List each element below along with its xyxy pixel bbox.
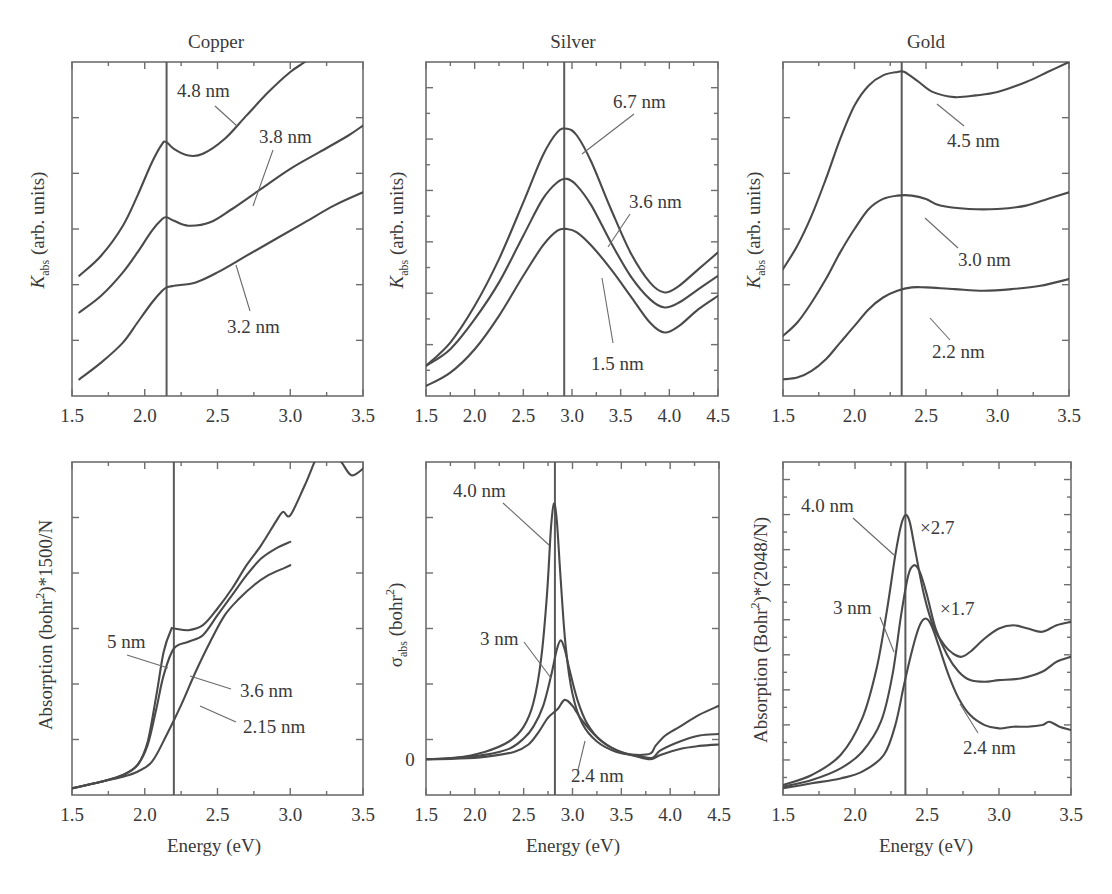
x-tick-label: 2.5 <box>511 405 535 426</box>
x-tick-label: 1.5 <box>60 405 84 426</box>
ylabel-gold-bottom: Absorption (Bohr2)*(2048/N) <box>748 517 772 743</box>
x-tick-label: 1.5 <box>414 405 438 426</box>
x-tick-label: 3.0 <box>278 405 302 426</box>
x-tick-label: 3.5 <box>351 405 375 426</box>
series-label: 4.0 nm <box>801 495 854 516</box>
column-title-copper: Copper <box>188 31 245 52</box>
x-tick-label: 3.0 <box>561 804 585 825</box>
x-tick-label: 3.5 <box>609 405 633 426</box>
x-tick-label: 1.5 <box>771 804 795 825</box>
xlabel-gold: Energy (eV) <box>879 835 973 857</box>
series-2.2-nm <box>783 279 1069 379</box>
annotation-leader <box>503 503 549 545</box>
series-label: 3.8 nm <box>259 126 312 147</box>
x-tick-label: 2.0 <box>843 405 867 426</box>
annotation-leader <box>582 114 634 154</box>
ylabel-copper-top: Kabs (arb. units) <box>27 172 52 290</box>
annotation-leader <box>236 265 250 311</box>
series-label: 2.2 nm <box>932 341 985 362</box>
x-tick-label: 2.0 <box>843 804 867 825</box>
plot-frame <box>783 62 1069 396</box>
panel-gold-top: 1.52.02.53.03.54.5 nm3.0 nm2.2 nm <box>771 62 1081 426</box>
annotation-leader <box>608 214 630 247</box>
series-label: 3.2 nm <box>227 316 280 337</box>
series-label: 6.7 nm <box>613 91 666 112</box>
ylabel-gold-top: Kabs (arb. units) <box>743 172 768 290</box>
series-label: ×1.7 <box>940 598 974 619</box>
annotation-leader <box>937 104 964 126</box>
series-label: 4.5 nm <box>947 130 1000 151</box>
x-tick-label: 4.5 <box>707 804 731 825</box>
series-label: 1.5 nm <box>591 353 644 374</box>
x-tick-label: 2.5 <box>512 804 536 825</box>
series-2.15-nm <box>72 565 290 788</box>
x-tick-label: 3.5 <box>351 804 375 825</box>
series-label: 3 nm <box>480 628 519 649</box>
series-3-nm-1.7 <box>783 565 1071 787</box>
series-label: ×2.7 <box>920 517 954 538</box>
series-3.2-nm <box>79 192 363 379</box>
series-label: 3.6 nm <box>629 191 682 212</box>
annotation-leader <box>215 106 237 126</box>
annotation-leader <box>524 642 551 678</box>
panel-gold-bottom: 1.52.02.53.03.54.0 nm×2.73 nm×1.72.4 nm <box>771 462 1083 825</box>
x-tick-label: 2.0 <box>133 405 157 426</box>
y-tick-label: 0 <box>405 749 415 770</box>
series-4.0-nm-2.7 <box>783 515 1071 785</box>
series-3.6-nm <box>72 542 290 788</box>
xlabel-silver: Energy (eV) <box>526 835 620 857</box>
annotation-leader <box>602 278 613 343</box>
ylabel-silver-bottom: σabs (bohr2) <box>383 583 410 667</box>
x-tick-label: 2.0 <box>463 804 487 825</box>
x-tick-label: 1.5 <box>60 804 84 825</box>
panel-copper-bottom: 1.52.02.53.03.55 nm3.6 nm2.15 nm <box>60 450 375 825</box>
x-tick-label: 1.5 <box>771 405 795 426</box>
series-1.5-nm <box>426 229 718 386</box>
series-label: 3.0 nm <box>958 249 1011 270</box>
ylabel-copper-bottom: Absorption (bohr2)*1500/N <box>33 520 57 731</box>
series-label: 3.6 nm <box>240 680 293 701</box>
series-3.8-nm <box>79 126 363 313</box>
x-tick-label: 2.5 <box>914 405 938 426</box>
column-title-gold: Gold <box>907 31 946 52</box>
column-title-silver: Silver <box>550 31 596 52</box>
series-2.4-nm <box>783 619 1071 789</box>
xlabel-copper: Energy (eV) <box>167 835 261 857</box>
x-tick-label: 3.0 <box>560 405 584 426</box>
annotation-leader <box>253 150 273 206</box>
x-tick-label: 2.5 <box>206 405 230 426</box>
plot-frame <box>426 462 719 795</box>
series-4.0-nm <box>426 503 719 759</box>
panel-silver-top: 1.52.02.53.03.54.04.56.7 nm3.6 nm1.5 nm <box>414 62 730 426</box>
series-label: 2.4 nm <box>963 737 1016 758</box>
annotation-leader <box>200 706 236 722</box>
x-tick-label: 3.0 <box>986 405 1010 426</box>
x-tick-label: 4.5 <box>706 405 730 426</box>
x-tick-label: 3.5 <box>1059 804 1083 825</box>
ylabel-silver-top: Kabs (arb. units) <box>386 172 411 290</box>
series-5-nm <box>72 450 363 788</box>
figure: Copper Silver Gold 1.52.02.53.03.54.8 nm… <box>0 0 1112 894</box>
x-tick-label: 4.0 <box>658 804 682 825</box>
x-tick-label: 3.0 <box>987 804 1011 825</box>
x-tick-label: 4.0 <box>657 405 681 426</box>
series-3.0-nm <box>783 192 1069 336</box>
series-3-nm <box>426 640 719 759</box>
x-tick-label: 3.5 <box>609 804 633 825</box>
series-label: 4.8 nm <box>177 80 230 101</box>
panel-copper-top: 1.52.02.53.03.54.8 nm3.8 nm3.2 nm <box>60 45 375 426</box>
plot-frame <box>72 62 363 396</box>
series-label: 2.15 nm <box>243 716 306 737</box>
x-tick-label: 2.0 <box>463 405 487 426</box>
annotation-leader <box>925 218 958 248</box>
x-tick-label: 1.5 <box>414 804 438 825</box>
x-tick-label: 3.5 <box>1057 405 1081 426</box>
x-tick-label: 2.5 <box>206 804 230 825</box>
annotation-leader <box>853 518 894 555</box>
series-label: 5 nm <box>107 631 146 652</box>
annotation-leader <box>930 318 950 340</box>
series-label: 3 nm <box>833 597 872 618</box>
annotation-leader <box>190 676 231 689</box>
series-label: 2.4 nm <box>571 765 624 786</box>
series-label: 4.0 nm <box>453 480 506 501</box>
